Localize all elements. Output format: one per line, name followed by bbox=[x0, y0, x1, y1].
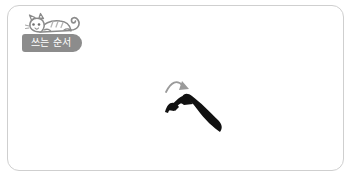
stroke-order-diagram bbox=[148, 66, 248, 136]
writing-order-label: 쓰는 순서 bbox=[22, 34, 82, 52]
brush-stroke-ink bbox=[165, 94, 222, 132]
writing-order-label-text: 쓰는 순서 bbox=[31, 38, 71, 48]
lesson-card: 쓰는 순서 bbox=[7, 5, 344, 171]
stroke-order-card-screenshot: 쓰는 순서 bbox=[0, 0, 358, 182]
stroke-direction-arrow bbox=[166, 81, 189, 92]
